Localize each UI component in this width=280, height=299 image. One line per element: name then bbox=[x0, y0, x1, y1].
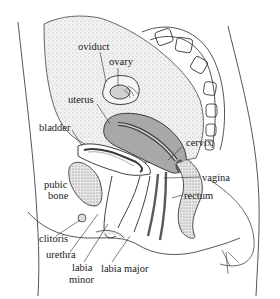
label-clitoris: clitoris bbox=[39, 233, 68, 244]
label-vagina: vagina bbox=[202, 172, 230, 183]
pubic-bone bbox=[69, 162, 102, 206]
label-bladder: bladder bbox=[39, 122, 71, 133]
label-rectum: rectum bbox=[184, 190, 213, 201]
ovary-oviduct bbox=[103, 76, 140, 105]
label-labia-minor-1: labia bbox=[72, 262, 92, 273]
back-outline bbox=[228, 26, 259, 296]
label-oviduct: oviduct bbox=[78, 41, 110, 52]
vagina-canal bbox=[104, 172, 166, 240]
label-urethra: urethra bbox=[46, 249, 76, 260]
label-uterus: uterus bbox=[68, 94, 94, 105]
label-cervix: cervix bbox=[186, 137, 212, 148]
label-bone: bone bbox=[48, 190, 68, 201]
anatomy-diagram bbox=[0, 0, 280, 299]
abdominal-wall-outline bbox=[18, 22, 39, 296]
label-labia-minor-2: minor bbox=[69, 274, 94, 285]
label-ovary: ovary bbox=[109, 56, 133, 67]
label-pubic: pubic bbox=[44, 179, 67, 190]
gluteal-cleft bbox=[222, 250, 238, 274]
buttock-outline bbox=[210, 180, 254, 266]
label-labia-major: labia major bbox=[101, 263, 149, 274]
